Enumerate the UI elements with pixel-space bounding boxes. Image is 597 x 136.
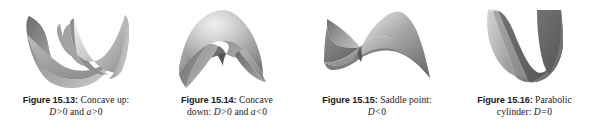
caption-line-1: Figure 15.13: Concave up: xyxy=(23,94,130,106)
condition-val-2: 0 xyxy=(262,106,267,117)
figure-title: Parabolic xyxy=(535,94,572,105)
figure-title-continued: down: xyxy=(187,106,211,117)
surface-elliptic-paraboloid-up xyxy=(17,0,135,94)
figure-15-14: Figure 15.14: Concave down: D>0 and a<0 xyxy=(152,0,302,136)
figure-number: Figure 15.15: xyxy=(322,95,377,105)
figure-15-15: Figure 15.15: Saddle point: D<0 xyxy=(302,0,452,136)
condition-conjunction: and xyxy=(70,106,84,117)
elliptic-paraboloid-down-graphic xyxy=(171,2,283,92)
caption-line-1: Figure 15.14: Concave xyxy=(181,94,273,106)
caption-line-2: D>0 and a>0 xyxy=(23,106,130,118)
caption-line-2: cylinder: D=0 xyxy=(477,106,572,118)
figure-15-16: Figure 15.16: Parabolic cylinder: D=0 xyxy=(452,0,597,136)
caption-line-1: Figure 15.15: Saddle point: xyxy=(322,94,431,106)
condition-var-1: D xyxy=(214,106,221,117)
condition-val-2: 0 xyxy=(98,106,103,117)
caption-15-16: Figure 15.16: Parabolic cylinder: D=0 xyxy=(475,94,574,119)
saddle-graphic xyxy=(317,2,437,92)
caption-15-13: Figure 15.13: Concave up: D>0 and a>0 xyxy=(21,94,132,119)
figure-strip: Figure 15.13: Concave up: D>0 and a>0 xyxy=(0,0,597,136)
figure-number: Figure 15.14: xyxy=(181,95,236,105)
caption-line-2: down: D>0 and a<0 xyxy=(181,106,273,118)
figure-title: Concave up: xyxy=(81,94,130,105)
figure-15-13: Figure 15.13: Concave up: D>0 and a>0 xyxy=(0,0,152,136)
condition-conjunction: and xyxy=(234,106,248,117)
figure-number: Figure 15.16: xyxy=(477,95,532,105)
caption-line-2: D<0 xyxy=(322,106,431,118)
figure-title: Concave xyxy=(239,94,273,105)
caption-15-14: Figure 15.14: Concave down: D>0 and a<0 xyxy=(179,94,275,119)
figure-title-continued: cylinder: xyxy=(497,106,532,117)
figure-number: Figure 15.13: xyxy=(23,95,78,105)
elliptic-paraboloid-up-graphic xyxy=(17,2,135,92)
caption-15-15: Figure 15.15: Saddle point: D<0 xyxy=(320,94,433,119)
parabolic-cylinder-graphic xyxy=(471,2,579,92)
surface-elliptic-paraboloid-down xyxy=(171,0,283,94)
surface-hyperbolic-paraboloid-saddle xyxy=(317,0,437,94)
condition-val-1: 0 xyxy=(63,106,68,117)
surface-parabolic-cylinder xyxy=(471,0,579,94)
condition-var-1: D xyxy=(368,106,375,117)
figure-title: Saddle point: xyxy=(380,94,432,105)
condition-val-1: 0 xyxy=(381,106,386,117)
condition-val-1: 0 xyxy=(547,106,552,117)
condition-var-1: D xyxy=(534,106,541,117)
caption-line-1: Figure 15.16: Parabolic xyxy=(477,94,572,106)
condition-val-1: 0 xyxy=(227,106,232,117)
condition-var-2: a xyxy=(251,106,256,117)
